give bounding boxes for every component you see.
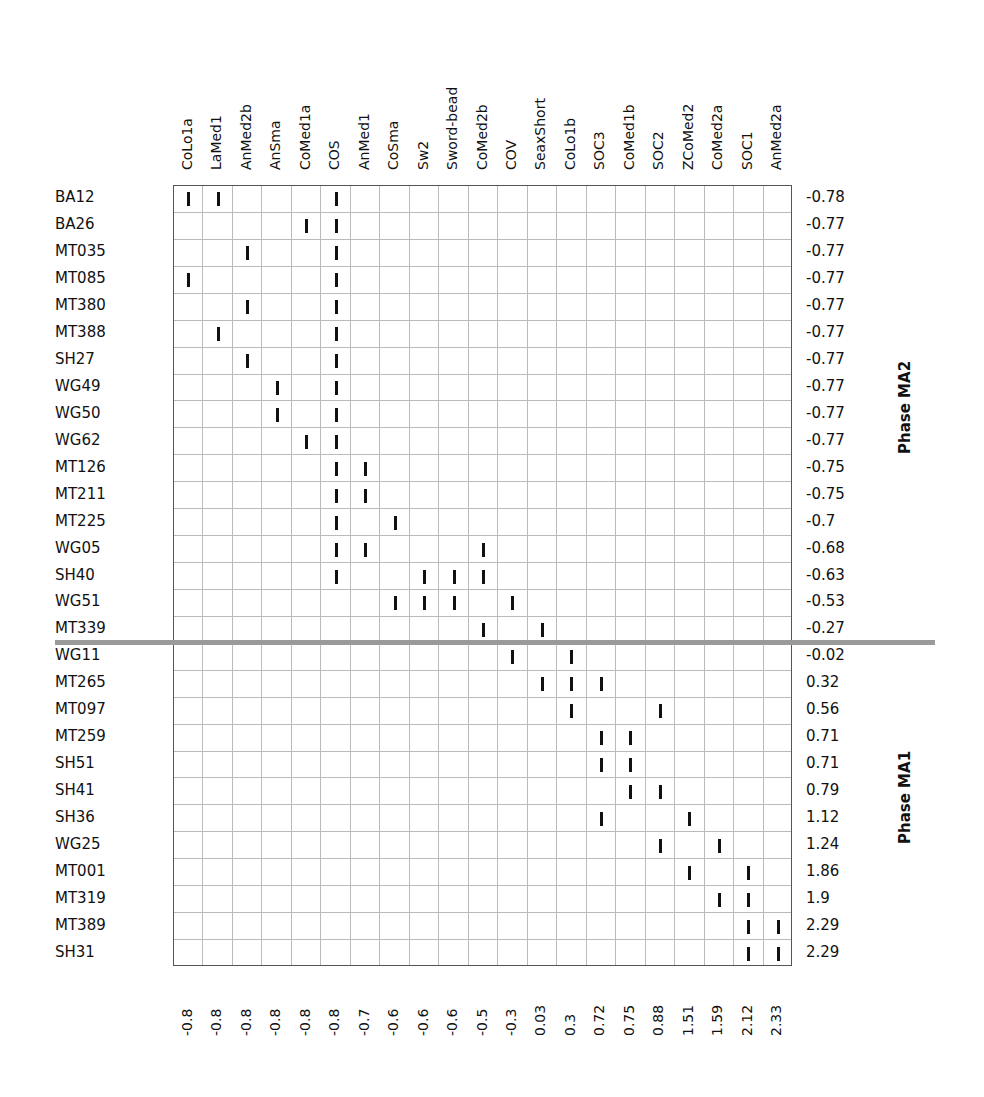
row-score: 0.71 <box>806 727 839 745</box>
column-score: 0.88 <box>650 1005 666 1036</box>
column-label: SOC1 <box>739 131 755 170</box>
presence-mark <box>629 731 632 745</box>
column-label: COV <box>503 140 519 170</box>
grid-hline <box>174 212 791 213</box>
row-label: MT126 <box>55 458 106 476</box>
row-score: 2.29 <box>806 943 839 961</box>
grid-hline <box>174 751 791 752</box>
presence-mark <box>600 731 603 745</box>
column-label: AnMed1 <box>356 113 372 170</box>
presence-mark <box>335 273 338 287</box>
column-label: SeaxShort <box>532 98 548 170</box>
grid-vline <box>320 186 321 965</box>
presence-mark <box>570 650 573 664</box>
presence-mark <box>335 300 338 314</box>
row-score: -0.77 <box>806 242 845 260</box>
row-score: 1.12 <box>806 808 839 826</box>
column-score: 2.33 <box>768 1005 784 1036</box>
grid-hline <box>174 400 791 401</box>
column-label: CoMed1a <box>297 105 313 170</box>
column-score: -0.6 <box>385 1009 401 1036</box>
row-label: BA12 <box>55 188 95 206</box>
column-label: CoMed2b <box>474 104 490 170</box>
row-score: 1.24 <box>806 835 839 853</box>
grid-hline <box>174 616 791 617</box>
grid-hline <box>174 724 791 725</box>
grid-hline <box>174 239 791 240</box>
presence-mark <box>217 192 220 206</box>
presence-mark <box>394 596 397 610</box>
seriation-chart: CoLo1aLaMed1AnMed2bAnSmaCoMed1aCOSAnMed1… <box>0 0 984 1097</box>
column-label: Sword-bead <box>444 87 460 170</box>
row-label: MT388 <box>55 323 106 341</box>
presence-mark <box>629 785 632 799</box>
seriation-grid <box>173 185 792 966</box>
row-score: -0.77 <box>806 269 845 287</box>
presence-mark <box>246 246 249 260</box>
row-score: 0.32 <box>806 673 839 691</box>
presence-mark <box>600 677 603 691</box>
grid-hline <box>174 939 791 940</box>
grid-hline <box>174 562 791 563</box>
presence-mark <box>335 219 338 233</box>
grid-hline <box>174 266 791 267</box>
grid-vline <box>704 186 705 965</box>
presence-mark <box>482 543 485 557</box>
column-score: 0.72 <box>591 1005 607 1036</box>
row-label: MT319 <box>55 889 106 907</box>
grid-hline <box>174 858 791 859</box>
grid-hline <box>174 697 791 698</box>
grid-vline <box>202 186 203 965</box>
column-label: ZCoMed2 <box>680 104 696 170</box>
row-label: SH36 <box>55 808 95 826</box>
presence-mark <box>335 489 338 503</box>
grid-hline <box>174 481 791 482</box>
presence-mark <box>335 246 338 260</box>
presence-mark <box>335 381 338 395</box>
row-score: -0.75 <box>806 458 845 476</box>
column-score: -0.8 <box>267 1009 283 1036</box>
grid-vline <box>556 186 557 965</box>
column-label: COS <box>326 140 342 170</box>
row-label: SH27 <box>55 350 95 368</box>
presence-mark <box>364 543 367 557</box>
presence-mark <box>335 570 338 584</box>
row-score: -0.77 <box>806 323 845 341</box>
presence-mark <box>394 516 397 530</box>
grid-hline <box>174 589 791 590</box>
presence-mark <box>747 947 750 961</box>
column-label: SOC3 <box>591 131 607 170</box>
row-label: MT389 <box>55 916 106 934</box>
row-label: WG51 <box>55 592 101 610</box>
row-score: -0.53 <box>806 592 845 610</box>
row-label: MT035 <box>55 242 106 260</box>
phase-divider <box>55 640 935 645</box>
grid-hline <box>174 374 791 375</box>
presence-mark <box>453 570 456 584</box>
presence-mark <box>217 327 220 341</box>
grid-vline <box>674 186 675 965</box>
presence-mark <box>688 812 691 826</box>
grid-vline <box>527 186 528 965</box>
grid-hline <box>174 885 791 886</box>
column-label: SOC2 <box>650 131 666 170</box>
column-score: -0.8 <box>179 1009 195 1036</box>
presence-mark <box>423 596 426 610</box>
row-label: SH41 <box>55 781 95 799</box>
grid-vline <box>645 186 646 965</box>
row-score: -0.77 <box>806 404 845 422</box>
presence-mark <box>482 623 485 637</box>
row-score: 1.9 <box>806 889 830 907</box>
grid-hline <box>174 804 791 805</box>
row-label: WG62 <box>55 431 101 449</box>
presence-mark <box>541 677 544 691</box>
row-label: BA26 <box>55 215 95 233</box>
row-label: WG11 <box>55 646 101 664</box>
column-score: 1.51 <box>680 1005 696 1036</box>
row-label: WG50 <box>55 404 101 422</box>
grid-vline <box>232 186 233 965</box>
row-score: 1.86 <box>806 862 839 880</box>
column-label: AnMed2a <box>768 104 784 170</box>
presence-mark <box>453 596 456 610</box>
column-score: -0.8 <box>238 1009 254 1036</box>
